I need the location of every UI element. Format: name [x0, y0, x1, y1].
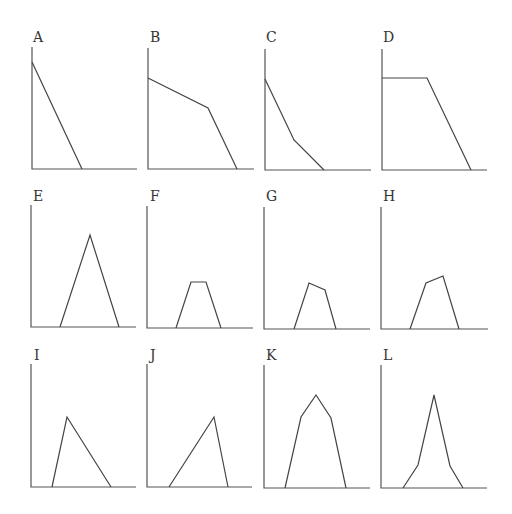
- panel-grid-figure: ABCDEFGHIJKL: [0, 0, 512, 514]
- panel-label: B: [150, 29, 160, 45]
- axes: [264, 207, 370, 329]
- axes: [31, 205, 136, 327]
- panel-label: J: [148, 347, 156, 363]
- panel-b: B: [148, 29, 254, 169]
- panel-label: C: [266, 29, 277, 45]
- panel-e: E: [31, 188, 136, 327]
- shape-line: [265, 79, 324, 170]
- panel-label: G: [266, 188, 277, 204]
- axes: [265, 49, 371, 170]
- shape-line: [169, 417, 228, 487]
- axes: [264, 365, 370, 488]
- axes: [147, 206, 253, 328]
- panel-a: A: [32, 29, 137, 169]
- axes: [381, 365, 487, 488]
- shape-line: [32, 62, 82, 169]
- shape-line: [410, 276, 459, 329]
- panel-k: K: [264, 347, 370, 488]
- panel-d: D: [382, 29, 487, 170]
- shape-line: [148, 78, 237, 169]
- shape-line: [52, 417, 111, 487]
- axes: [147, 364, 252, 487]
- panel-h: H: [381, 188, 488, 329]
- panel-f: F: [147, 188, 253, 328]
- axes: [32, 47, 137, 169]
- panel-g: G: [264, 188, 370, 329]
- panel-label: F: [150, 188, 160, 204]
- shape-line: [403, 395, 463, 488]
- panel-label: L: [383, 347, 392, 363]
- panel-i: I: [31, 347, 136, 487]
- axes: [382, 49, 487, 170]
- panel-label: E: [33, 188, 43, 204]
- shape-line: [382, 78, 471, 170]
- shape-line: [294, 283, 336, 329]
- axes: [31, 364, 136, 487]
- panel-label: I: [34, 347, 40, 363]
- panel-j: J: [147, 347, 252, 487]
- shape-line: [285, 395, 346, 488]
- panel-label: D: [383, 29, 394, 45]
- panel-label: A: [32, 29, 44, 45]
- panel-label: K: [266, 347, 277, 363]
- shape-line: [176, 282, 221, 328]
- panel-c: C: [265, 29, 371, 170]
- axes: [148, 48, 254, 169]
- axes: [381, 207, 488, 329]
- shape-line: [60, 235, 119, 327]
- panel-label: H: [383, 188, 395, 204]
- panel-l: L: [381, 347, 487, 488]
